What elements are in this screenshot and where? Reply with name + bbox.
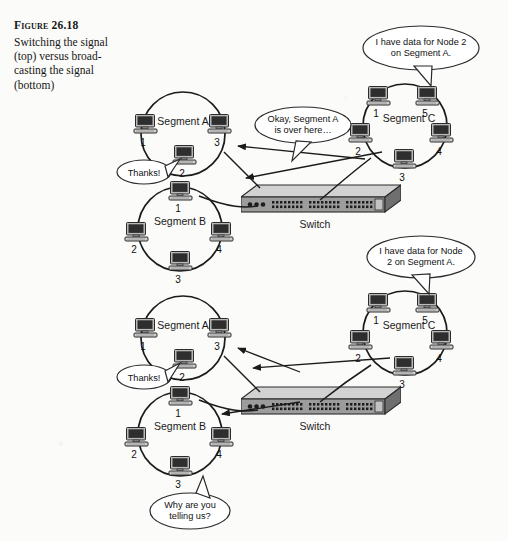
node-number: 3 [214,341,220,352]
computer-icon [134,319,157,338]
link-segment-a-switch-bottom [224,356,260,392]
computer-icon [416,294,439,313]
speech-bubble-complaint-bottom: Why are you telling us? [150,476,230,529]
computer-icon [367,294,390,313]
computer-icon [169,252,192,271]
node-number: 1 [140,137,146,148]
node-number: 3 [214,137,220,148]
node-number: 5 [422,108,428,119]
switch-label-bottom: Switch [300,420,331,432]
node-number: 2 [179,372,185,383]
node-number: 4 [436,353,442,364]
signal-arrow-switch-to-a-bottom [238,348,300,372]
computer-icon [367,87,390,106]
node-number: 3 [175,274,181,285]
segment-b-label-bottom: Segment B [154,420,206,432]
bubble-line: Thanks! [128,168,161,178]
network-diagram: Segment A 1 2 3 Segment B 1 2 3 4 Segmen… [0,0,508,541]
computer-icon [208,115,231,134]
node-number: 1 [373,108,379,119]
segment-a-label-bottom: Segment A [157,319,208,331]
computer-icon [134,115,157,134]
computer-icon [169,387,192,406]
switch-label-top: Switch [300,218,331,230]
computer-icon [169,457,192,476]
bubble-line: Why are you [164,500,216,510]
computer-icon [430,124,453,143]
bubble-line: Thanks! [128,373,161,383]
speech-bubble-source-top: I have data for Node 2 on Segment A. [363,26,479,86]
computer-icon [208,319,231,338]
computer-icon [210,428,233,447]
bubble-line: I have data for Node [379,246,462,256]
node-number: 1 [175,408,181,419]
node-number: 5 [422,315,428,326]
computer-icon [393,357,416,376]
bubble-line: telling us? [169,511,210,521]
bubble-line: is over here… [274,125,331,135]
node-number: 2 [355,353,361,364]
computer-icon [210,223,233,242]
node-number: 1 [140,341,146,352]
computer-icon [169,182,192,201]
speech-bubble-ack-top: Thanks! [117,159,180,184]
computer-icon [349,124,372,143]
node-number: 2 [131,449,137,460]
node-number: 1 [175,203,181,214]
computer-icon [393,150,416,169]
node-number: 3 [175,479,181,490]
bubble-line: I have data for Node 2 [376,37,467,47]
node-number: 4 [216,244,222,255]
figure-page: Figure 26.18 Switching the signal (top) … [0,0,508,541]
link-segment-a-switch-top [224,152,260,188]
computer-icon [416,87,439,106]
bubble-line: 2 on Segment A. [387,257,455,267]
node-number: 2 [179,168,185,179]
node-number: 3 [399,172,405,183]
speech-bubble-ack-bottom: Thanks! [117,363,180,389]
computer-icon [125,428,148,447]
node-number: 1 [373,315,379,326]
bubble-line: Okay, Segment A [268,114,340,124]
computer-icon [430,331,453,350]
bubble-line: on Segment A. [391,48,451,58]
computer-icon [349,331,372,350]
diagram-bottom: Segment A 1 2 3 Segment B 1 2 3 4 Segmen… [117,236,475,529]
node-number: 2 [131,244,137,255]
segment-a-label-top: Segment A [157,115,208,127]
segment-b-label-top: Segment B [154,215,206,227]
node-number: 4 [436,146,442,157]
computer-icon [125,223,148,242]
speech-bubble-source-bottom: I have data for Node 2 on Segment A. [367,236,475,294]
node-number: 4 [216,449,222,460]
node-number: 2 [355,146,361,157]
